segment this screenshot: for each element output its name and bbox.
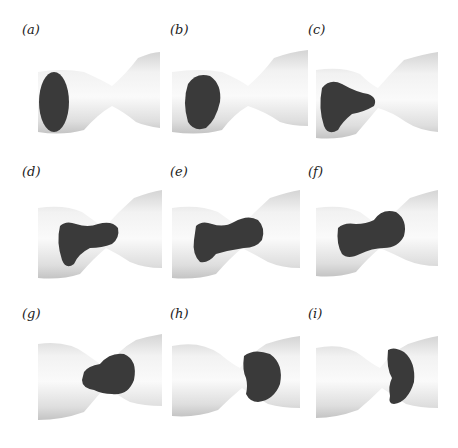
tube-droplet-figure <box>308 22 456 152</box>
tube-droplet-figure <box>170 164 318 294</box>
tube-droplet-figure <box>22 22 170 152</box>
panel-i: (i) <box>308 306 456 448</box>
panel-d: (d) <box>22 164 170 312</box>
panel-f: (f) <box>308 164 456 312</box>
tube-droplet-figure <box>308 306 456 436</box>
tube-droplet-figure <box>22 164 170 294</box>
tube-droplet-figure <box>170 22 318 152</box>
tube-droplet-figure <box>22 306 170 436</box>
panel-a: (a) <box>22 22 170 170</box>
panel-b: (b) <box>170 22 318 170</box>
panel-c: (c) <box>308 22 456 170</box>
panel-g: (g) <box>22 306 170 448</box>
droplet <box>39 72 69 132</box>
tube-droplet-figure <box>170 306 318 436</box>
panel-e: (e) <box>170 164 318 312</box>
tube-droplet-figure <box>308 164 456 294</box>
panel-h: (h) <box>170 306 318 448</box>
